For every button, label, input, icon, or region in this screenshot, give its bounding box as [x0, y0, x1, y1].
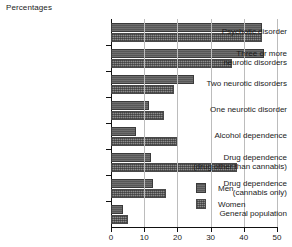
- category-label: Three or moreneurotic disorders: [186, 49, 292, 68]
- x-tick: [111, 228, 112, 232]
- y-tick: [106, 45, 111, 46]
- category-label-line: neurotic disorders: [186, 58, 287, 67]
- legend-label-women: Women: [218, 200, 245, 209]
- bar-women: [111, 215, 128, 224]
- y-tick: [106, 175, 111, 176]
- category-label-line: Drug dependence: [186, 153, 287, 162]
- y-tick: [106, 149, 111, 150]
- legend-item-men: Men: [196, 180, 245, 196]
- category-label: Psychotic disorder: [186, 27, 292, 36]
- y-tick: [106, 201, 111, 202]
- category-label-line: Two neurotic disorders: [186, 79, 287, 88]
- y-tick: [106, 71, 111, 72]
- bar-women: [111, 189, 166, 198]
- category-label-line: Three or more: [186, 49, 287, 58]
- x-tick: [277, 228, 278, 232]
- x-tick: [244, 228, 245, 232]
- bar-women: [111, 85, 174, 94]
- bar-men: [111, 75, 194, 84]
- category-label-line: Alcohol dependence: [186, 131, 287, 140]
- category-label: Alcohol dependence: [186, 131, 292, 140]
- x-axis-line: [111, 227, 278, 228]
- category-label-line: Psychotic disorder: [186, 27, 287, 36]
- legend-swatch-women-icon: [196, 199, 206, 209]
- gridline: [144, 19, 145, 227]
- gridline: [177, 19, 178, 227]
- category-label: Two neurotic disorders: [186, 79, 292, 88]
- category-label: One neurotic disorder: [186, 105, 292, 114]
- x-tick-label: 40: [239, 233, 248, 242]
- y-tick: [106, 123, 111, 124]
- x-tick-label: 50: [273, 233, 282, 242]
- chart-title: Percentages: [6, 3, 52, 12]
- x-tick-label: 10: [140, 233, 149, 242]
- x-tick: [177, 228, 178, 232]
- bar-men: [111, 179, 153, 188]
- x-tick-label: 0: [109, 233, 113, 242]
- bar-women: [111, 111, 164, 120]
- legend-item-women: Women: [196, 196, 245, 212]
- y-tick: [106, 97, 111, 98]
- category-label-line: One neurotic disorder: [186, 105, 287, 114]
- x-tick: [211, 228, 212, 232]
- legend-label-men: Men: [218, 184, 234, 193]
- x-tick-label: 30: [206, 233, 215, 242]
- x-tick: [144, 228, 145, 232]
- category-label: Drug dependence(drug other than cannabis…: [186, 153, 292, 172]
- bar-men: [111, 205, 123, 214]
- legend-swatch-men-icon: [196, 183, 206, 193]
- chart-legend: Men Women: [196, 180, 245, 212]
- x-tick-label: 20: [173, 233, 182, 242]
- bar-men: [111, 127, 136, 136]
- bar-chart: Percentages 01020304050 Psychotic disord…: [0, 0, 292, 247]
- category-label-line: (drug other than cannabis): [186, 162, 287, 171]
